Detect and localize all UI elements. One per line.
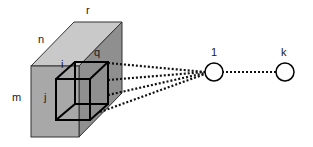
label-neuron-k: k xyxy=(281,46,287,58)
neuron-1 xyxy=(205,63,223,81)
label-volume-height: m xyxy=(12,91,21,103)
label-rf-width: i xyxy=(61,58,63,70)
label-volume-width: n xyxy=(38,33,44,45)
connection-line xyxy=(108,63,205,72)
label-volume-depth: r xyxy=(86,4,90,16)
neuron-k xyxy=(276,63,294,81)
label-rf-depth: q xyxy=(94,46,100,58)
diagram-canvas: r n m q i j 1 k xyxy=(0,0,313,147)
label-neuron-1: 1 xyxy=(211,46,217,58)
label-rf-height: j xyxy=(43,91,46,103)
